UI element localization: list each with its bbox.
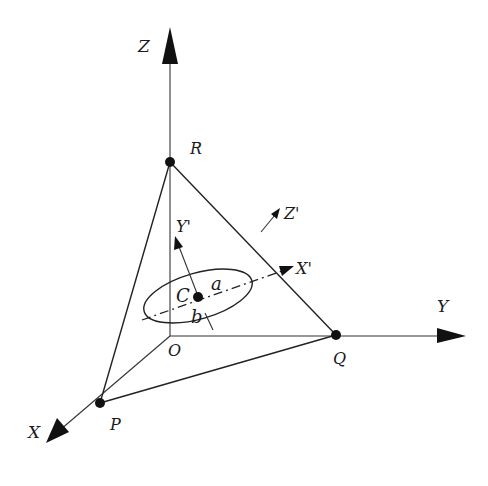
origin-label: O [168, 341, 181, 360]
semi-minor-label: b [191, 306, 203, 327]
y-prime-label: Y' [176, 217, 191, 236]
edge-pq [100, 335, 336, 403]
x-axis-arrow-icon [46, 418, 69, 443]
z-axis-label: Z [137, 36, 151, 56]
y-prime-arrow-icon [174, 236, 183, 250]
point-c-label: C [176, 285, 190, 306]
semi-major-label: a [211, 273, 222, 294]
x-prime-label: X' [294, 259, 312, 278]
z-prime-arrow-icon [271, 208, 280, 219]
point-p [95, 398, 105, 408]
z-prime-label: Z' [283, 204, 300, 223]
z-axis-arrow-icon [162, 27, 178, 64]
y-axis-arrow-icon [437, 328, 466, 343]
point-r [165, 157, 175, 167]
point-r-label: R [189, 139, 202, 158]
point-p-label: P [109, 415, 121, 434]
x-axis [46, 336, 170, 443]
x-axis-label: X [26, 422, 41, 442]
point-q [331, 330, 341, 340]
y-axis-label: Y [437, 296, 450, 316]
point-c [193, 292, 203, 302]
coordinate-diagram: Z Y X X' Y' Z' R Q P O [0, 0, 488, 486]
edge-rp [100, 162, 170, 403]
x-prime-arrow-icon [279, 266, 294, 276]
point-q-label: Q [333, 349, 346, 368]
z-prime-axis [261, 208, 280, 232]
